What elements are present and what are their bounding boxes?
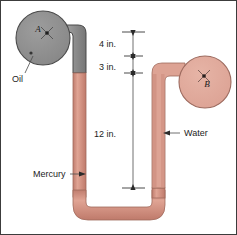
callout-water-label: Water [184,128,208,138]
manometer-figure: A B [0,0,237,235]
vessel-b-label: B [204,79,210,89]
vessel-a-speck [29,51,32,54]
callout-oil-label: Oil [12,74,23,84]
vessel-a: A [16,11,70,65]
vessel-a-circle [16,11,70,65]
mercury-left-leg [73,73,86,197]
callout-mercury-label: Mercury [33,169,66,179]
dimension-label-4in: 4 in. [99,39,116,49]
mercury-right-leg [152,188,165,198]
vessel-b: B [179,56,231,108]
dimension-label-12in: 12 in. [94,129,116,139]
vessel-a-label: A [34,24,41,34]
figure-canvas: A B [0,0,237,235]
dimension-label-3in: 3 in. [99,62,116,72]
